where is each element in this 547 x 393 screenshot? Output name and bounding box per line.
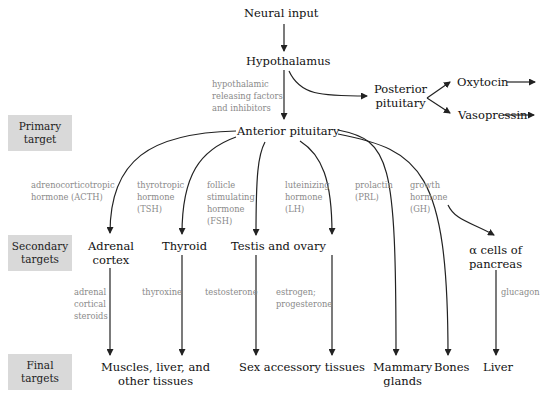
node-line: Posterior [374,82,427,96]
node-thyroid: Thyroid [162,239,207,253]
node-line: Adrenal [88,239,134,253]
hormone-line: and inhibitors [212,102,283,114]
hormone-acth: adrenocorticotropic hormone (ACTH) [31,179,115,203]
node-line: other tissues [101,374,210,388]
node-vasopressin: Vasopressin [458,108,527,122]
level-box-final: Finaltargets [8,354,72,390]
node-muscles-liver: Muscles, liver, and other tissues [101,360,210,388]
node-line: cortex [88,253,134,267]
hormone-line: (LH) [285,203,330,215]
node-line: glands [373,374,432,388]
arrow-posterior-to-vasopressin [427,98,450,113]
arrow-posterior-to-oxytocin [427,82,450,98]
level-label: target [19,133,62,146]
node-mammary-glands: Mammary glands [373,360,432,388]
hormone-line: hormone [207,203,255,215]
node-posterior-pituitary: Posterior pituitary [374,82,427,110]
node-line: pancreas [469,257,522,271]
level-box-primary: Primarytarget [8,115,72,151]
node-line: α cells of [469,243,522,257]
level-box-secondary: Secondarytargets [8,235,72,271]
hormone-thyroxine: thyroxine [142,286,182,298]
hormone-line: luteinizing [285,179,330,191]
level-label: Final [21,359,59,372]
hormone-line: growth [410,179,447,191]
hormone-line: hormone [137,191,184,203]
hormone-glucagon: glucagon [501,286,540,298]
level-label: targets [12,253,68,266]
node-bones: Bones [434,360,470,374]
arrow-gh-to-alpha [448,205,494,235]
hormone-lh: luteinizing hormone (LH) [285,179,330,215]
hormone-line: (PRL) [355,191,393,203]
hormone-line: thyrotropic [137,179,184,191]
arrow-fsh [256,142,265,235]
hormone-gh: growth hormone (GH) [410,179,447,215]
hormone-line: releasing factors [212,90,283,102]
hormone-line: steroids [74,310,108,322]
node-liver: Liver [483,360,513,374]
hormone-releasing-factors: hypothalamic releasing factors and inhib… [212,78,283,114]
hormone-line: (FSH) [207,215,255,227]
level-label: Primary [19,120,62,133]
hormone-line: adrenal [74,286,108,298]
arrow-hypothalamus-to-posterior [289,71,367,96]
node-sex-accessory: Sex accessory tissues [239,360,365,374]
hormone-estrogen-progesterone: estrogen; progesterone [276,286,332,310]
node-adrenal-cortex: Adrenal cortex [88,239,134,267]
arrow-gh [338,134,448,355]
hormone-testosterone: testosterone [205,286,258,298]
node-testis-ovary: Testis and ovary [231,239,326,253]
node-line: pituitary [374,96,427,110]
node-oxytocin: Oxytocin [457,75,508,89]
hormone-line: (TSH) [137,203,184,215]
hormone-line: cortical [74,298,108,310]
hormone-line: hormone [410,191,447,203]
level-label: Secondary [12,240,68,253]
node-line: Mammary [373,360,432,374]
hormone-fsh: follicle stimulating hormone (FSH) [207,179,255,227]
hormone-line: prolactin [355,179,393,191]
node-hypothalamus: Hypothalamus [246,54,330,68]
hormone-line: progesterone [276,298,332,310]
hormone-line: (GH) [410,203,447,215]
hormone-line: adrenocorticotropic [31,179,115,191]
level-label: targets [21,372,59,385]
hormone-prl: prolactin (PRL) [355,179,393,203]
node-alpha-cells: α cells of pancreas [469,243,522,271]
hormone-line: estrogen; [276,286,332,298]
node-neural-input: Neural input [244,6,318,20]
node-line: Muscles, liver, and [101,360,210,374]
hormone-line: hormone (ACTH) [31,191,115,203]
node-anterior-pituitary: Anterior pituitary [237,124,340,138]
hormone-tsh: thyrotropic hormone (TSH) [137,179,184,215]
hormone-adrenal-steroids: adrenal cortical steroids [74,286,108,322]
hormone-line: stimulating [207,191,255,203]
hormone-line: follicle [207,179,255,191]
hormone-line: hormone [285,191,330,203]
hormone-line: hypothalamic [212,78,283,90]
arrow-prl [338,130,396,355]
